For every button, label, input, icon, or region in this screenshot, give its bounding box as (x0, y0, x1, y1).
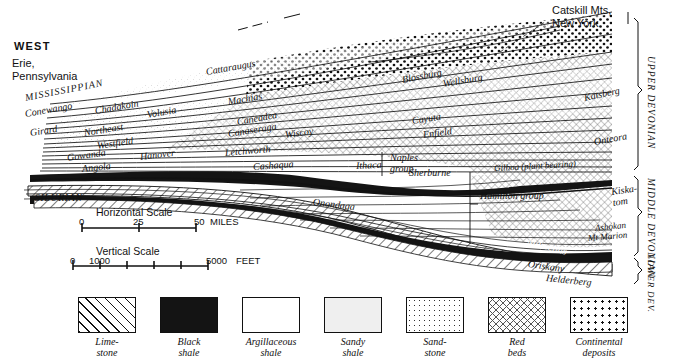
vertical-scale-tick-1000: 1000 (89, 255, 110, 266)
legend-item-black-shale: Black shale (160, 297, 218, 358)
legend-swatch-black-shale (160, 297, 218, 333)
legend-item-red-beds: Red beds (488, 297, 546, 358)
legend-label-continental-deposits: Continental deposits (570, 336, 628, 358)
legend-swatch-sandstone (406, 297, 464, 333)
label-sherburne: Sherburne (409, 167, 451, 178)
legend-swatch-argillaceous-shale (242, 297, 300, 333)
legend-label-argillaceous-shale: Argillaceous shale (242, 336, 300, 358)
horizontal-scale-tick-25: 25 (133, 216, 144, 227)
vertical-scale-tick-0: 0 (70, 255, 75, 266)
legend-label-sandy-shale: Sandy shale (324, 336, 382, 358)
legend-label-black-shale: Black shale (160, 336, 218, 358)
legend-label-sandstone: Sand- stone (406, 336, 464, 358)
legend-swatch-continental-deposits (570, 297, 628, 333)
devonian-brackets (628, 12, 642, 284)
legend-item-continental-deposits: Continental deposits (570, 297, 628, 358)
legend-item-argillaceous-shale: Argillaceous shale (242, 297, 300, 358)
legend-swatch-limestone (78, 297, 136, 333)
cross-section-figure: WEST Erie, Pennsylvania Catskill Mts, Ne… (0, 0, 676, 358)
label-ithaca: Ithaca (356, 159, 382, 171)
vertical-scale-unit: FEET (236, 255, 260, 266)
legend-item-sandy-shale: Sandy shale (324, 297, 382, 358)
legend-item-sandstone: Sand- stone (406, 297, 464, 358)
legend-swatch-sandy-shale (324, 297, 382, 333)
label-erie-pennsylvania: Erie, Pennsylvania (12, 57, 77, 83)
label-west: WEST (14, 40, 51, 52)
horizontal-scale-tick-50: 50 (194, 216, 205, 227)
legend-label-red-beds: Red beds (488, 336, 546, 358)
legend-label-limestone: Lime- stone (78, 336, 136, 358)
horizontal-scale-unit: MILES (210, 216, 239, 227)
bracket-label-lower-devonian: LOWER DEV. (646, 254, 656, 313)
label-hamilton-group: Hamilton group (480, 190, 544, 201)
horizontal-scale-tick-0: 0 (79, 216, 84, 227)
label-silurian: SILURIAN (35, 193, 83, 203)
legend-item-limestone: Lime- stone (78, 297, 136, 358)
legend-swatch-red-beds (488, 297, 546, 333)
bracket-label-upper-devonian: UPPER DEVONIAN (646, 56, 656, 149)
label-catskill-mts-new-york: Catskill Mts, New York (552, 4, 611, 30)
label-kiskatom: Kiska- tom (610, 182, 639, 207)
vertical-scale-tick-5000: 5000 (206, 255, 227, 266)
